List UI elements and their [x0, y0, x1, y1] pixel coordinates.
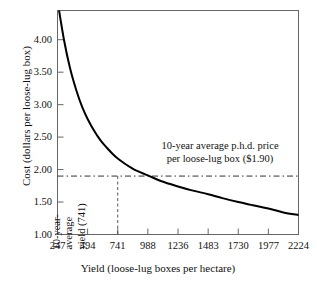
y-axis-title: Cost (dollars per loose-lug box)	[20, 21, 32, 211]
yield-annotation-rotated-text: 10-year- average yield (741)	[51, 184, 88, 250]
price-reference-annotation: 10-year average p.h.d. price per loose-l…	[140, 139, 300, 165]
x-axis-title: Yield (loose-lug boxes per hectare)	[0, 262, 316, 274]
yield-reference-annotation: 10-year- average yield (741)	[40, 172, 102, 234]
cost-yield-chart-figure: 1.001.502.002.503.003.504.00 24749474198…	[0, 0, 316, 285]
yield-annotation-line-3: yield (741)	[76, 184, 88, 250]
yield-annotation-line-2: average	[64, 184, 76, 250]
x-axis-tick-label: 2224	[279, 241, 317, 252]
price-annotation-line-2: per loose-lug box ($1.90)	[140, 152, 300, 165]
yield-annotation-line-1: 10-year-	[51, 184, 63, 250]
price-annotation-line-1: 10-year average p.h.d. price	[140, 139, 300, 152]
